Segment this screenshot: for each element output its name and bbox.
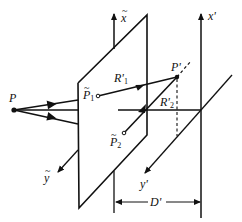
label-y-prime: y'	[140, 178, 148, 190]
label-R2-prime: R'2	[160, 96, 174, 110]
hologram-plane	[78, 15, 147, 208]
label-R1-prime: R'1	[114, 72, 128, 86]
label-P-prime: P'	[171, 61, 181, 73]
illumination-rays	[14, 100, 78, 124]
point-P-tilde-1	[96, 94, 100, 98]
label-x-tilde: ~x	[121, 12, 126, 24]
hologram-geometry-diagram	[0, 0, 242, 222]
label-y-tilde: ~y	[44, 172, 49, 184]
label-D-prime: D'	[150, 196, 161, 208]
ray-R1-arrowhead	[135, 83, 145, 91]
y-prime-axis-arrow	[145, 110, 201, 173]
y-tilde-axis-arrow	[58, 150, 78, 172]
label-P: P	[9, 92, 16, 104]
label-P-tilde-2: ~P2	[110, 136, 121, 150]
label-P-tilde-1: ~P1	[83, 89, 94, 103]
ray-R2-arrowhead	[138, 104, 146, 113]
point-P-tilde-2	[122, 131, 126, 135]
label-x-prime: x'	[208, 10, 216, 22]
y-prime-axis	[201, 75, 232, 110]
point-P	[11, 107, 16, 112]
